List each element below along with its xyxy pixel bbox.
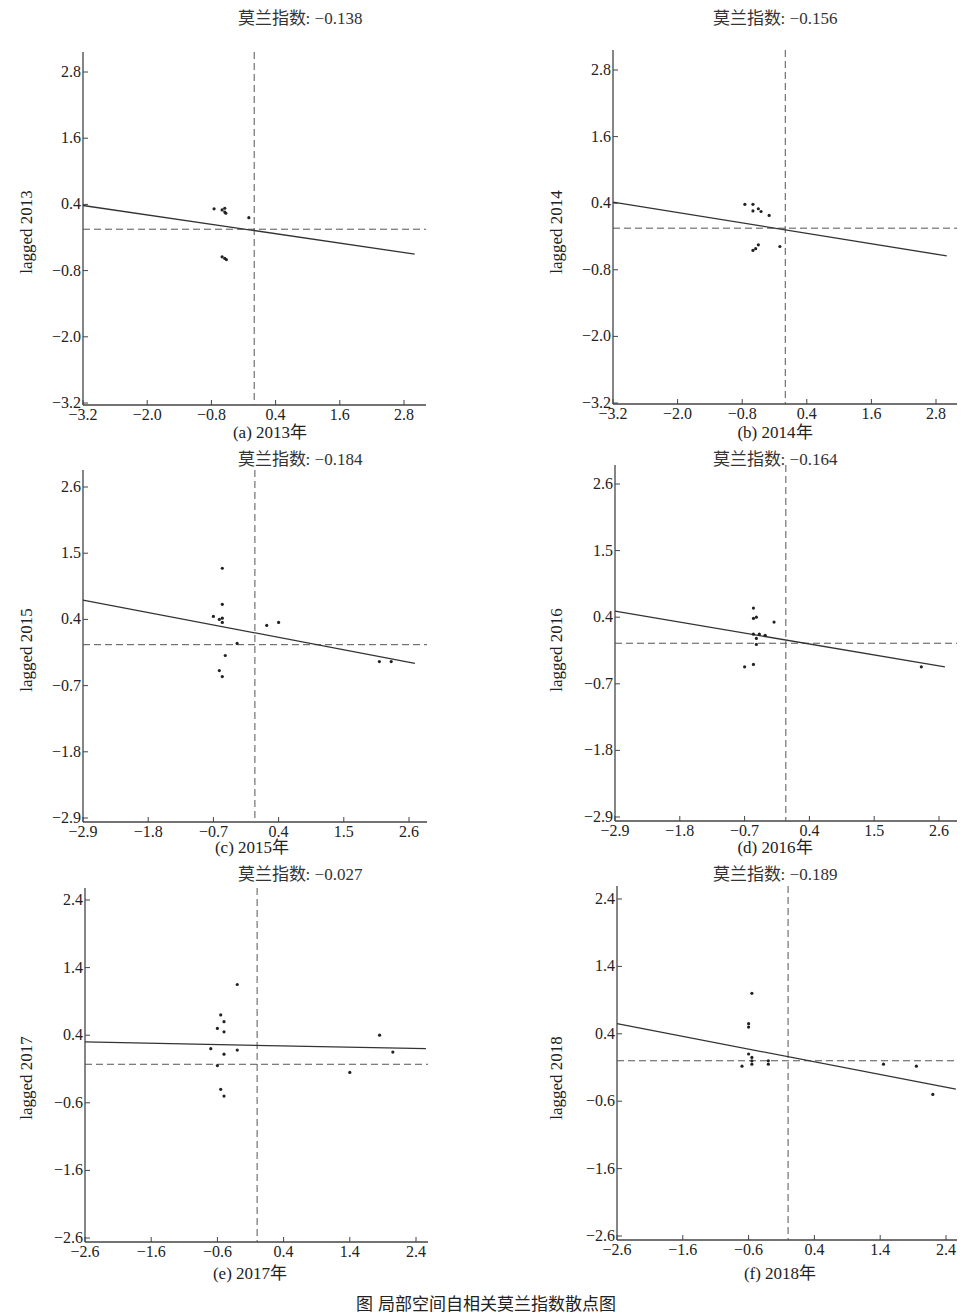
- x-tick-label: 1.6: [861, 405, 881, 423]
- data-point: [222, 1020, 225, 1023]
- data-point: [222, 1030, 225, 1033]
- data-point: [755, 637, 758, 640]
- y-tick-label: 1.4: [63, 959, 83, 977]
- y-tick-label: 2.4: [595, 890, 615, 908]
- data-point: [750, 1056, 753, 1059]
- panel-caption-a: (a) 2013年: [233, 418, 307, 443]
- data-point: [920, 665, 923, 668]
- data-point: [915, 1065, 918, 1068]
- x-tick-label: 1.6: [330, 406, 350, 424]
- data-point: [218, 669, 221, 672]
- data-point: [752, 663, 755, 666]
- data-point: [747, 1022, 750, 1025]
- x-tick-label: 1.4: [340, 1243, 360, 1261]
- data-point: [236, 1048, 239, 1051]
- data-point: [751, 209, 754, 212]
- y-tick-label: −2.6: [54, 1229, 83, 1247]
- y-tick-label: −2.0: [52, 328, 81, 346]
- data-point: [218, 618, 221, 621]
- data-point: [221, 567, 224, 570]
- data-point: [236, 642, 239, 645]
- y-axis-label-a: lagged 2013: [17, 190, 37, 274]
- data-point: [236, 983, 239, 986]
- y-tick-label: −1.8: [52, 743, 81, 761]
- y-tick-label: 2.6: [593, 475, 613, 493]
- data-point: [752, 617, 755, 620]
- panel-caption-c: (c) 2015年: [215, 833, 289, 858]
- x-tick-label: 2.6: [399, 823, 419, 841]
- x-tick-label: −1.8: [134, 823, 163, 841]
- x-tick-label: 1.5: [864, 822, 884, 840]
- y-tick-label: −0.7: [52, 677, 81, 695]
- data-point: [223, 207, 226, 210]
- y-tick-label: −3.2: [582, 394, 611, 412]
- panel-c: [83, 470, 427, 822]
- data-point: [265, 624, 268, 627]
- y-tick-label: 1.4: [595, 957, 615, 975]
- y-tick-label: −3.2: [52, 394, 81, 412]
- x-tick-label: −1.6: [668, 1241, 697, 1259]
- y-tick-label: −1.6: [54, 1161, 83, 1179]
- data-point: [764, 634, 767, 637]
- data-point: [767, 1059, 770, 1062]
- y-tick-label: 0.4: [595, 1025, 615, 1043]
- y-tick-label: 0.4: [63, 1026, 83, 1044]
- panel-a: [83, 52, 426, 405]
- data-point: [224, 212, 227, 215]
- x-tick-label: 1.5: [334, 823, 354, 841]
- data-point: [750, 1063, 753, 1066]
- data-point: [757, 207, 760, 210]
- data-point: [222, 1094, 225, 1097]
- x-tick-label: 2.8: [394, 406, 414, 424]
- data-point: [277, 621, 280, 624]
- panel-d: [615, 465, 957, 821]
- y-tick-label: −2.6: [586, 1227, 615, 1245]
- x-tick-label: −0.8: [197, 406, 226, 424]
- y-tick-label: 0.4: [61, 610, 81, 628]
- y-tick-label: −0.6: [54, 1094, 83, 1112]
- x-tick-label: −0.6: [734, 1241, 763, 1259]
- y-tick-label: 0.4: [593, 608, 613, 626]
- data-point: [750, 992, 753, 995]
- data-point: [247, 216, 250, 219]
- data-point: [224, 654, 227, 657]
- y-tick-label: −2.9: [52, 809, 81, 827]
- x-tick-label: 2.6: [929, 822, 949, 840]
- data-point: [391, 1051, 394, 1054]
- y-tick-label: 2.8: [591, 61, 611, 79]
- x-tick-label: 2.4: [406, 1243, 426, 1261]
- y-tick-label: 1.6: [591, 128, 611, 146]
- x-tick-label: 0.4: [804, 1241, 824, 1259]
- y-axis-label-d: lagged 2016: [547, 608, 567, 692]
- y-axis-label-c: lagged 2015: [17, 608, 37, 692]
- data-point: [882, 1063, 885, 1066]
- y-tick-label: 2.6: [61, 478, 81, 496]
- data-point: [221, 617, 224, 620]
- data-point: [221, 255, 224, 258]
- y-tick-label: −2.9: [584, 808, 613, 826]
- data-point: [221, 208, 224, 211]
- y-tick-label: −0.8: [582, 261, 611, 279]
- x-tick-label: 2.4: [936, 1241, 956, 1259]
- y-axis-label-f: lagged 2018: [547, 1036, 567, 1120]
- y-tick-label: −0.6: [586, 1092, 615, 1110]
- data-point: [768, 214, 771, 217]
- data-point: [219, 1013, 222, 1016]
- x-tick-label: −1.8: [665, 822, 694, 840]
- data-point: [378, 660, 381, 663]
- data-point: [212, 615, 215, 618]
- data-point: [751, 249, 754, 252]
- data-point: [758, 633, 761, 636]
- data-point: [378, 1034, 381, 1037]
- data-point: [221, 621, 224, 624]
- data-point: [747, 1025, 750, 1028]
- panel-caption-e: (e) 2017年: [213, 1259, 287, 1284]
- x-tick-label: −1.6: [137, 1243, 166, 1261]
- y-tick-label: 0.4: [591, 194, 611, 212]
- panel-b: [613, 50, 957, 404]
- y-tick-label: 2.4: [63, 891, 83, 909]
- y-axis-label-b: lagged 2014: [547, 190, 567, 274]
- data-point: [216, 1064, 219, 1067]
